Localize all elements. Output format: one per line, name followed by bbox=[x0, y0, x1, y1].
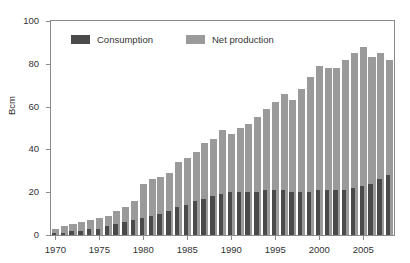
bar-consumption bbox=[360, 186, 364, 235]
legend-swatch-net-production bbox=[186, 35, 205, 44]
bar-group bbox=[272, 21, 279, 235]
bar-group bbox=[166, 21, 173, 235]
bar-consumption bbox=[52, 233, 56, 235]
bar-consumption bbox=[298, 192, 302, 235]
y-tick-label: 20 bbox=[13, 187, 39, 197]
bar-group bbox=[113, 21, 120, 235]
bar-consumption bbox=[210, 196, 214, 235]
bars-container bbox=[51, 21, 394, 235]
bar-group bbox=[140, 21, 147, 235]
bar-group bbox=[149, 21, 156, 235]
bar-consumption bbox=[219, 194, 223, 235]
x-tick-mark bbox=[143, 235, 144, 240]
bar-consumption bbox=[272, 190, 276, 235]
bar-consumption bbox=[325, 190, 329, 235]
y-tick-label: 40 bbox=[13, 144, 39, 154]
bar-consumption bbox=[69, 231, 73, 235]
x-tick-label: 1975 bbox=[82, 245, 116, 255]
x-tick-label: 2005 bbox=[346, 245, 380, 255]
bar-consumption bbox=[245, 192, 249, 235]
bar-consumption bbox=[61, 233, 65, 235]
y-tick-mark bbox=[46, 235, 51, 236]
bar-group bbox=[52, 21, 59, 235]
bar-consumption bbox=[166, 211, 170, 235]
bar-group bbox=[263, 21, 270, 235]
bar-group bbox=[175, 21, 182, 235]
legend-item-net-production: Net production bbox=[186, 34, 274, 45]
bar-consumption bbox=[333, 190, 337, 235]
bar-group bbox=[377, 21, 384, 235]
bar-consumption bbox=[105, 226, 109, 235]
bar-group bbox=[289, 21, 296, 235]
bar-group bbox=[237, 21, 244, 235]
bar-group bbox=[87, 21, 94, 235]
bar-consumption bbox=[122, 222, 126, 235]
bar-group bbox=[105, 21, 112, 235]
x-tick-mark bbox=[187, 235, 188, 240]
bar-group bbox=[69, 21, 76, 235]
bar-consumption bbox=[113, 224, 117, 235]
x-tick-label: 1985 bbox=[170, 245, 204, 255]
bar-group bbox=[219, 21, 226, 235]
bar-consumption bbox=[78, 231, 82, 235]
bar-group bbox=[193, 21, 200, 235]
bar-consumption bbox=[175, 207, 179, 235]
bar-group bbox=[184, 21, 191, 235]
bar-group bbox=[333, 21, 340, 235]
bar-group bbox=[386, 21, 393, 235]
bar-consumption bbox=[342, 190, 346, 235]
legend-label-consumption: Consumption bbox=[97, 34, 153, 45]
bar-consumption bbox=[87, 229, 91, 235]
bar-group bbox=[316, 21, 323, 235]
bar-group bbox=[157, 21, 164, 235]
legend-label-net-production: Net production bbox=[212, 34, 274, 45]
bar-group bbox=[122, 21, 129, 235]
bar-consumption bbox=[201, 199, 205, 235]
x-tick-label: 1970 bbox=[38, 245, 72, 255]
bar-group bbox=[131, 21, 138, 235]
x-tick-mark bbox=[275, 235, 276, 240]
x-tick-mark bbox=[363, 235, 364, 240]
bar-group bbox=[351, 21, 358, 235]
bar-consumption bbox=[193, 201, 197, 235]
y-tick-label: 60 bbox=[13, 102, 39, 112]
x-tick-label: 1980 bbox=[126, 245, 160, 255]
bar-group bbox=[325, 21, 332, 235]
bar-group bbox=[368, 21, 375, 235]
x-tick-label: 2000 bbox=[302, 245, 336, 255]
x-tick-label: 1990 bbox=[214, 245, 248, 255]
bar-consumption bbox=[184, 205, 188, 235]
legend-item-consumption: Consumption bbox=[71, 34, 153, 45]
bar-group bbox=[281, 21, 288, 235]
bar-consumption bbox=[316, 190, 320, 235]
x-tick-mark bbox=[319, 235, 320, 240]
bar-consumption bbox=[368, 184, 372, 235]
bar-consumption bbox=[281, 190, 285, 235]
bar-consumption bbox=[149, 216, 153, 235]
bar-group bbox=[96, 21, 103, 235]
bar-group bbox=[245, 21, 252, 235]
bar-consumption bbox=[377, 179, 381, 235]
bar-consumption bbox=[131, 220, 135, 235]
bar-group bbox=[360, 21, 367, 235]
bar-consumption bbox=[289, 192, 293, 235]
bar-consumption bbox=[237, 192, 241, 235]
y-tick-label: 100 bbox=[13, 16, 39, 26]
bar-consumption bbox=[351, 188, 355, 235]
bar-consumption bbox=[228, 192, 232, 235]
bar-group bbox=[254, 21, 261, 235]
bar-group bbox=[201, 21, 208, 235]
bar-group bbox=[228, 21, 235, 235]
bar-consumption bbox=[386, 175, 390, 235]
legend-swatch-consumption bbox=[71, 35, 90, 44]
bar-consumption bbox=[307, 192, 311, 235]
x-tick-mark bbox=[55, 235, 56, 240]
x-tick-mark bbox=[231, 235, 232, 240]
x-tick-label: 1995 bbox=[258, 245, 292, 255]
bar-group bbox=[342, 21, 349, 235]
bar-group bbox=[210, 21, 217, 235]
bar-chart: Bcm 020406080100 19701975198019851990199… bbox=[0, 0, 410, 263]
bar-consumption bbox=[157, 214, 161, 235]
y-tick-label: 0 bbox=[13, 230, 39, 240]
x-tick-mark bbox=[99, 235, 100, 240]
